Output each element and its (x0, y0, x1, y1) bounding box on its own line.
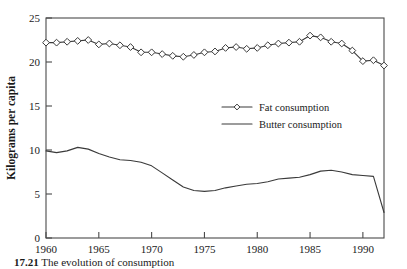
data-point-marker (117, 42, 124, 49)
x-axis-tick-labels: 1960196519701975198019851990 (35, 243, 374, 255)
data-point-marker (190, 52, 197, 59)
data-point-marker (286, 39, 293, 46)
data-point-marker (222, 45, 229, 52)
chart-legend: Fat consumptionButter consumption (222, 102, 343, 130)
x-tick-label: 1975 (193, 243, 216, 255)
data-point-marker (381, 62, 388, 69)
x-tick-label: 1990 (352, 243, 375, 255)
y-tick-label: 5 (35, 188, 41, 200)
series-line-butter (46, 147, 384, 212)
y-axis-title: Kilograms per capita (5, 76, 18, 180)
y-tick-label: 10 (29, 144, 41, 156)
data-point-marker (201, 49, 208, 56)
data-point-marker (106, 40, 113, 47)
data-point-marker (148, 49, 155, 56)
data-point-marker (370, 57, 377, 64)
data-point-marker (159, 51, 166, 58)
data-point-marker (338, 40, 345, 47)
data-point-marker (275, 40, 282, 47)
y-tick-label: 25 (29, 12, 41, 24)
data-point-marker (180, 53, 187, 60)
data-point-marker (74, 37, 81, 44)
data-point-marker (328, 38, 335, 45)
x-tick-label: 1970 (141, 243, 164, 255)
y-axis-ticks (46, 18, 52, 238)
data-point-marker (43, 39, 50, 46)
y-axis-tick-labels: 0510152025 (29, 12, 41, 244)
data-point-marker (243, 45, 250, 52)
x-tick-label: 1965 (88, 243, 111, 255)
figure-caption: 17.21 The evolution of consumption (14, 256, 407, 268)
data-point-marker (317, 34, 324, 41)
y-tick-label: 15 (29, 100, 41, 112)
x-tick-label: 1980 (246, 243, 269, 255)
data-point-marker (127, 44, 134, 51)
legend-label: Fat consumption (259, 102, 330, 113)
data-point-marker (53, 39, 60, 46)
x-tick-label: 1985 (299, 243, 322, 255)
data-point-marker (254, 45, 261, 52)
legend-swatch-marker (234, 104, 240, 110)
data-point-marker (169, 52, 176, 59)
figure-caption-number: 17.21 (14, 256, 39, 268)
data-point-marker (264, 42, 271, 49)
figure-container: 0510152025 1960196519701975198019851990 … (0, 0, 407, 269)
data-point-marker (212, 48, 219, 55)
x-axis-ticks (46, 232, 363, 238)
y-tick-label: 20 (29, 56, 41, 68)
data-point-marker (138, 49, 145, 56)
figure-caption-body: The evolution of consumption (41, 256, 174, 268)
data-point-marker (307, 32, 314, 39)
data-point-marker (296, 38, 303, 45)
data-point-marker (64, 38, 71, 45)
line-chart: 0510152025 1960196519701975198019851990 … (0, 0, 407, 269)
data-point-marker (233, 44, 240, 51)
legend-label: Butter consumption (259, 119, 343, 130)
x-tick-label: 1960 (35, 243, 58, 255)
data-point-marker (85, 37, 92, 44)
data-point-marker (95, 41, 102, 48)
